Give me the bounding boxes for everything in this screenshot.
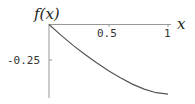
x-tick-label-1: 1 xyxy=(164,27,171,40)
chart: f(x) x 0.5 1 -0.25 xyxy=(0,0,195,104)
y-axis-label: f(x) xyxy=(33,5,60,23)
y-tick-label-neg0.25: -0.25 xyxy=(7,54,40,67)
x-tick-label-0.5: 0.5 xyxy=(97,27,117,40)
x-axis-label: x xyxy=(177,15,186,33)
